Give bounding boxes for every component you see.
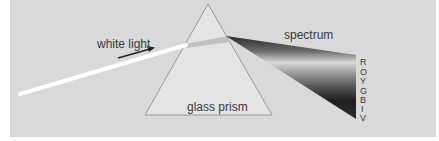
letter-r: R	[360, 57, 367, 67]
glass-prism	[145, 4, 272, 115]
spectrum-color-letters: R O Y G B I V	[360, 57, 367, 123]
white-light-label: white light	[96, 37, 151, 51]
glass-prism-label: glass prism	[187, 100, 248, 114]
spectrum-label: spectrum	[284, 28, 333, 42]
letter-v: V	[360, 113, 366, 123]
prism-diagram: white light glass prism spectrum R O Y G…	[0, 0, 439, 141]
letter-y: Y	[360, 76, 366, 86]
